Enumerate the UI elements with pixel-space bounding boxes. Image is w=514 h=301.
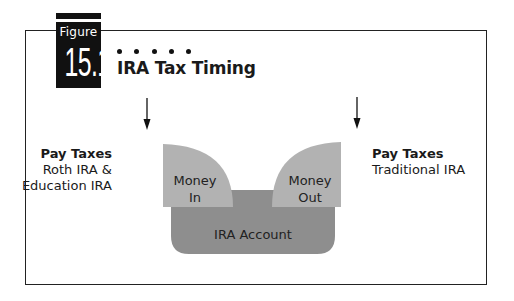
- right-annotation-heading: Pay Taxes: [372, 146, 465, 162]
- money-in-line1: Money: [165, 172, 225, 189]
- money-in-label: Money In: [165, 172, 225, 206]
- money-out-line2: Out: [280, 189, 340, 206]
- left-annotation-line2: Education IRA: [22, 178, 112, 194]
- left-annotation-line1: Roth IRA &: [22, 162, 112, 178]
- money-out-label: Money Out: [280, 172, 340, 206]
- down-arrow-icon: [354, 97, 361, 129]
- ira-account-label: IRA Account: [171, 226, 335, 243]
- money-out-line1: Money: [280, 172, 340, 189]
- down-arrow-icon: [144, 98, 151, 130]
- money-in-line2: In: [165, 189, 225, 206]
- left-annotation-heading: Pay Taxes: [22, 146, 112, 162]
- left-annotation: Pay Taxes Roth IRA & Education IRA: [22, 146, 112, 194]
- right-annotation: Pay Taxes Traditional IRA: [372, 146, 465, 178]
- right-annotation-line1: Traditional IRA: [372, 162, 465, 178]
